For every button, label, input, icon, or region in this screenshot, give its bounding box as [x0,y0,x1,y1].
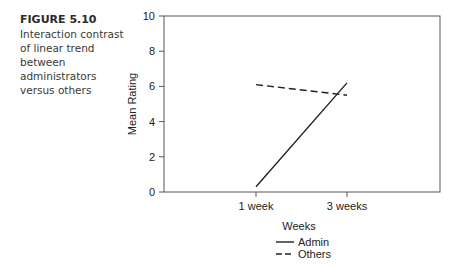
series-line-admin [256,83,347,187]
line-chart: 02468101 week3 weeksWeeksMean RatingAdmi… [0,0,463,266]
x-tick-label: 1 week [239,200,274,212]
y-tick-label: 0 [149,186,155,198]
plot-frame [164,16,440,192]
y-tick-label: 8 [149,45,155,57]
series-line-others [256,85,347,96]
x-tick-label: 3 weeks [327,200,368,212]
y-tick-label: 4 [149,116,155,128]
legend-label-others: Others [298,248,332,260]
y-tick-label: 6 [149,80,155,92]
y-tick-label: 2 [149,151,155,163]
y-tick-label: 10 [143,10,155,22]
y-axis-title: Mean Rating [126,73,138,135]
legend-label-admin: Admin [298,236,329,248]
x-axis-title: Weeks [282,220,316,232]
